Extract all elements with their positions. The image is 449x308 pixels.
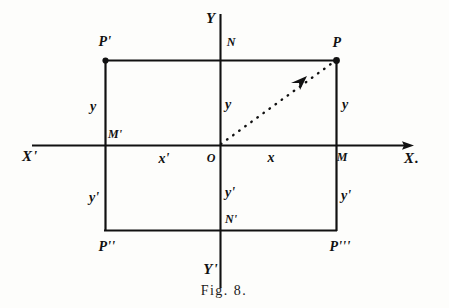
label-n-prime: N': [225, 213, 237, 225]
vertex-dot-p-prime: [102, 57, 108, 63]
label-p-double-prime: P'': [99, 240, 116, 254]
label-p-prime: P': [99, 35, 112, 49]
figure-caption: Fig. 8.: [201, 283, 248, 299]
label-y-lower-right-segment: y': [341, 189, 351, 203]
label-origin: O: [207, 152, 216, 164]
label-x-positive-segment: x: [268, 151, 275, 165]
label-y-positive-axis: Y: [206, 11, 216, 26]
label-y-negative-axis: Y': [203, 262, 218, 277]
label-y-lower-center-segment: y': [225, 186, 235, 200]
figure-container: P' P P'' P''' M' M N N' O X' X. Y Y' x' …: [0, 0, 449, 308]
label-x-negative-segment: x': [159, 152, 170, 166]
label-m-prime: M': [108, 128, 122, 140]
label-m: M: [337, 151, 348, 163]
label-y-lower-left-segment: y': [89, 191, 99, 205]
dotted-ray-arrowhead: [291, 76, 307, 90]
label-p: P: [333, 36, 342, 50]
label-n: N: [227, 36, 236, 48]
label-y-upper-right-segment: y: [342, 98, 348, 112]
label-p-triple-prime: P''': [329, 240, 350, 254]
vertex-dot-p: [333, 57, 340, 64]
label-x-positive-axis: X.: [404, 151, 420, 166]
label-y-upper-center-segment: y: [225, 98, 231, 112]
label-y-upper-left-segment: y: [90, 100, 96, 114]
diagram-canvas: [0, 0, 449, 308]
dotted-ray-O-to-P: [221, 61, 335, 144]
label-x-negative-axis: X': [22, 149, 38, 164]
